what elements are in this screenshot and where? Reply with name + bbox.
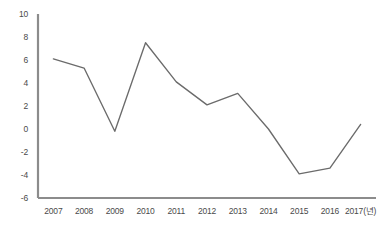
y-tick-label: 8 [4, 32, 28, 42]
x-tick-label: 2017(년) [339, 206, 383, 217]
y-tick-label: -2 [4, 147, 28, 157]
chart-plot-area [0, 0, 383, 237]
data-series-line [53, 43, 360, 174]
y-tick-label: 10 [4, 9, 28, 19]
y-tick-label: 6 [4, 55, 28, 65]
y-tick-label: -4 [4, 170, 28, 180]
series-group [53, 43, 360, 174]
y-tick-label: 2 [4, 101, 28, 111]
y-tick-label: -6 [4, 193, 28, 203]
line-chart: 1086420-2-4-6 20072008200920102011201220… [0, 0, 383, 237]
y-tick-label: 0 [4, 124, 28, 134]
y-tick-label: 4 [4, 78, 28, 88]
axis-group [38, 14, 376, 198]
